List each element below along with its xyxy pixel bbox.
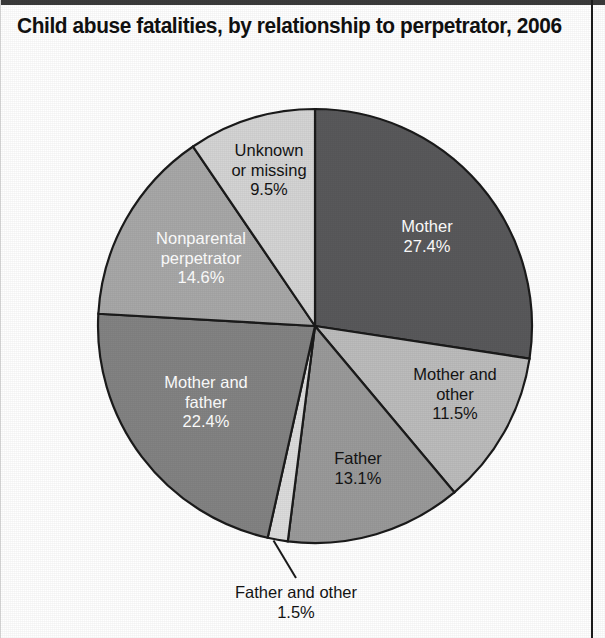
pie-slice-mother[interactable]	[315, 109, 532, 359]
slice-label-father-and-other-line1: Father and other	[206, 583, 386, 603]
slice-label-father-and-other-line2: 1.5%	[206, 603, 386, 623]
pie-chart-svg	[0, 0, 605, 638]
pie-slices	[98, 109, 532, 543]
slice-label-father-and-other: Father and other 1.5%	[206, 583, 386, 622]
callout-leader-line	[274, 541, 297, 579]
pie-chart: Mother 27.4% Mother and other 11.5% Fath…	[0, 0, 605, 638]
